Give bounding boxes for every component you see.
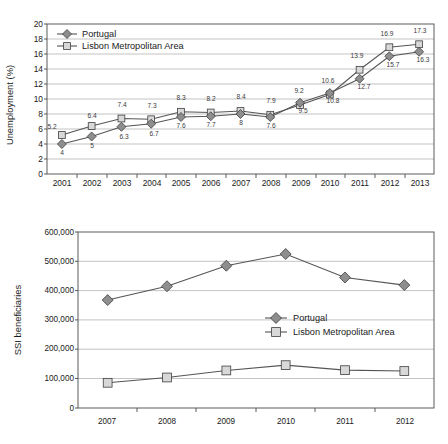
data-label: 7.4 [117,101,126,108]
data-label: 7.6 [266,122,275,129]
x-tick: 2012 [381,178,400,188]
x-tick: 2010 [321,178,340,188]
data-label: 16.9 [381,30,394,37]
ssi-y-tick-labels: 600,000 500,000 400,000 300,000 200,000 … [44,228,74,413]
series-line-portugal-ssi [108,254,405,300]
x-tick: 2008 [262,178,281,188]
data-label: 17.3 [414,27,427,34]
x-tick: 2011 [336,417,354,426]
unemployment-x-tick-labels: 2001 2002 2003 2004 2005 2006 2007 2008 … [53,178,430,188]
chart-ssi-beneficiaries: SSI beneficiaries 600,000 500,000 400,00… [12,228,434,426]
y-tick: 200,000 [44,344,74,353]
data-label: 15.7 [387,61,400,68]
data-label: 5 [90,142,94,149]
legend-item-lisbon[interactable]: Lisbon Metropolitan Area [265,327,396,337]
legend-item-lisbon[interactable]: Lisbon Metropolitan Area [57,41,185,51]
legend-label: Portugal [293,313,327,323]
data-label: 8.4 [236,93,245,100]
data-label: 6.7 [149,130,158,137]
series-markers-portugal-ssi [102,249,410,306]
x-tick: 2010 [277,417,296,426]
charts-svg: Unemployment (%) 20 18 16 14 12 10 8 6 4… [0,0,448,444]
series-line-lisbon-ssi [108,365,405,383]
unemployment-y-tick-labels: 20 18 16 14 12 10 8 6 4 2 0 [34,19,44,179]
y-tick: 400,000 [44,286,74,295]
x-tick: 2011 [351,178,369,188]
data-label: 7.9 [266,97,275,104]
ssi-y-axis-title: SSI beneficiaries [12,285,23,356]
y-tick: 4 [38,139,43,149]
x-tick: 2009 [217,417,236,426]
data-label: 10.6 [322,77,335,84]
data-label: 13.9 [351,52,364,59]
x-tick: 2005 [172,178,191,188]
y-tick: 12 [34,79,44,89]
y-tick: 18 [34,34,44,44]
x-tick: 2004 [143,178,162,188]
x-tick: 2013 [411,178,430,188]
chart-unemployment: Unemployment (%) 20 18 16 14 12 10 8 6 4… [4,19,434,188]
y-tick: 20 [34,19,44,29]
legend-label: Lisbon Metropolitan Area [293,327,396,337]
legend-unemployment: Portugal Lisbon Metropolitan Area [57,29,185,51]
data-label: 7.6 [176,122,185,129]
data-label: 9.2 [294,87,303,94]
legend-label: Lisbon Metropolitan Area [82,41,185,51]
data-labels-portugal-unemployment: 4 5 6.3 6.7 7.6 7.7 8 7.6 9.5 10.8 12.7 … [60,56,430,156]
y-tick: 600,000 [44,228,74,237]
x-tick: 2006 [202,178,221,188]
data-label: 6.3 [119,133,128,140]
y-tick: 8 [38,109,43,119]
data-label: 10.8 [327,97,340,104]
data-label: 7.7 [206,121,215,128]
data-label: 12.7 [358,83,371,90]
legend-item-portugal[interactable]: Portugal [265,313,327,324]
data-label: 5.2 [47,123,56,130]
y-tick: 14 [34,64,44,74]
y-tick: 0 [69,404,74,413]
data-label: 8.2 [206,95,215,102]
data-label: 4 [60,149,64,156]
x-tick: 2002 [83,178,102,188]
ssi-x-tick-labels: 2007 2008 2009 2010 2011 2012 [98,417,415,426]
y-tick: 16 [34,49,44,59]
y-tick: 300,000 [44,315,74,324]
x-tick: 2009 [292,178,311,188]
y-tick: 10 [34,94,44,104]
data-label: 16.3 [417,56,430,63]
ssi-x-tickmarks [137,408,375,412]
y-tick: 500,000 [44,257,74,266]
x-tick: 2007 [98,417,117,426]
x-tick: 2008 [158,417,177,426]
y-tick: 6 [38,124,43,134]
ssi-gridlines [78,261,434,378]
data-label: 7.3 [147,102,156,109]
data-label: 6.4 [87,112,96,119]
data-label: 8 [239,119,243,126]
data-label: 9.5 [298,107,307,114]
y-tick: 100,000 [44,374,74,383]
figure-container: Unemployment (%) 20 18 16 14 12 10 8 6 4… [0,0,448,444]
x-tick: 2007 [232,178,251,188]
legend-ssi: Portugal Lisbon Metropolitan Area [265,313,396,338]
x-tick: 2012 [396,417,415,426]
x-tick: 2003 [113,178,132,188]
legend-label: Portugal [82,29,116,39]
data-label: 8.3 [176,94,185,101]
y-tick: 0 [38,169,43,179]
y-tick: 2 [38,154,43,164]
legend-item-portugal[interactable]: Portugal [57,29,116,39]
series-markers-lisbon-ssi [103,361,408,387]
x-tick: 2001 [53,178,72,188]
unemployment-y-axis-title: Unemployment (%) [4,65,15,145]
